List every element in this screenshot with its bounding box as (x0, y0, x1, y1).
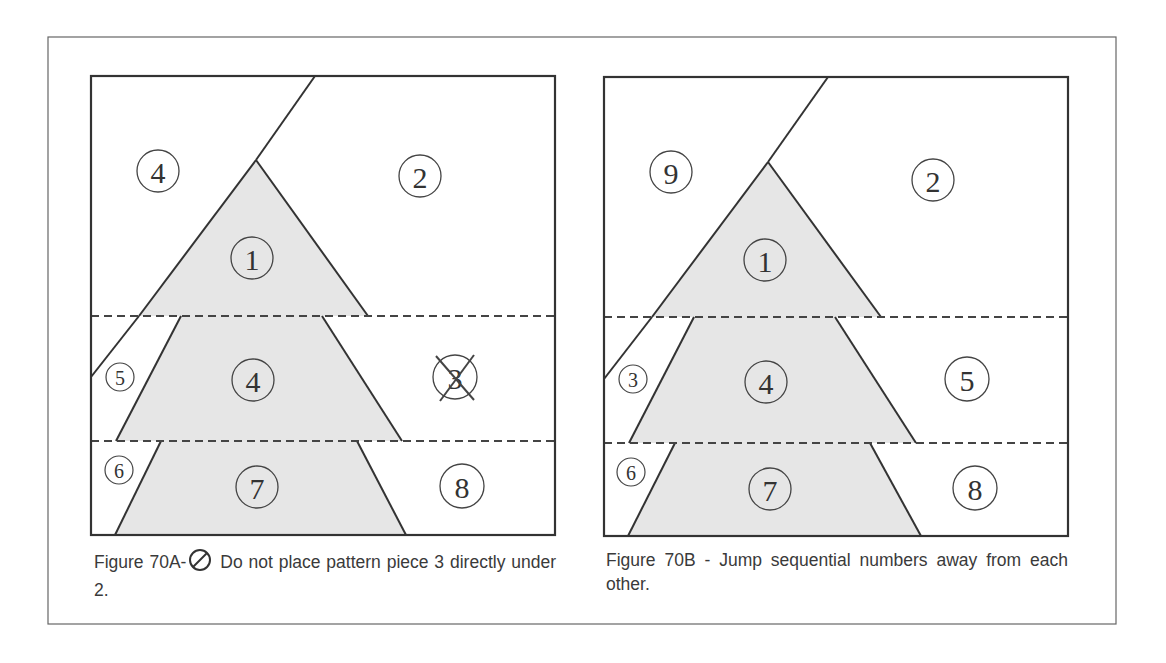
figure-70a-caption: Figure 70A- Do not place pattern piece 3… (94, 548, 556, 602)
tree-tier-1 (139, 160, 368, 316)
svg-text:1: 1 (245, 243, 260, 276)
piece-label-side-bottom: 6 (105, 456, 133, 484)
svg-text:2: 2 (926, 165, 941, 198)
piece-label-top-right: 2 (399, 155, 441, 197)
svg-text:4: 4 (246, 365, 261, 398)
svg-text:7: 7 (763, 474, 778, 507)
piece-label-side-mid: 5 (106, 363, 134, 391)
seam-line (256, 76, 315, 160)
piece-label-right-bottom: 8 (953, 466, 997, 510)
piece-label-side-mid: 3 (619, 365, 647, 393)
piece-label-top-left: 9 (650, 151, 692, 193)
svg-text:6: 6 (114, 460, 124, 482)
seam-line (768, 77, 828, 162)
svg-text:1: 1 (758, 245, 773, 278)
figure-70b-diagram: 9 2 1 3 4 5 6 7 8 (604, 77, 1068, 536)
caption-prefix: Figure 70A- (94, 552, 186, 572)
piece-label-right-bottom: 8 (440, 464, 484, 508)
piece-label-top-right: 2 (912, 159, 954, 201)
svg-text:2: 2 (413, 161, 428, 194)
svg-text:8: 8 (968, 473, 983, 506)
piece-label-crossed-out: 3 (433, 355, 477, 401)
figure-70b-caption: Figure 70B - Jump sequential numbers awa… (606, 548, 1068, 596)
svg-text:3: 3 (628, 369, 638, 391)
piece-label-right-mid: 5 (945, 357, 989, 401)
svg-text:8: 8 (455, 471, 470, 504)
svg-text:9: 9 (664, 157, 679, 190)
svg-text:5: 5 (960, 364, 975, 397)
piece-label-top-left: 4 (137, 150, 179, 192)
svg-text:5: 5 (115, 367, 125, 389)
piece-label-side-bottom: 6 (617, 458, 645, 486)
svg-text:7: 7 (250, 472, 265, 505)
figure-70a-diagram: 4 2 1 5 4 3 6 7 8 (91, 76, 555, 535)
svg-text:4: 4 (151, 156, 166, 189)
svg-text:6: 6 (626, 462, 636, 484)
svg-text:4: 4 (759, 367, 774, 400)
prohibited-icon (188, 548, 212, 578)
